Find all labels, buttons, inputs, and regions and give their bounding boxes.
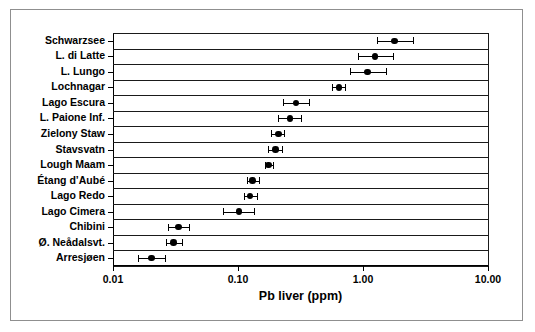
error-cap-low [268,146,269,153]
row-gridline [113,142,488,143]
x-axis-tick-label: 0.01 [83,273,143,285]
data-point-marker [391,38,398,45]
row-gridline [113,64,488,65]
y-axis-label: L. di Latte [0,50,105,61]
row-gridline [113,250,488,251]
chart-scatter-pb-liver: SchwarzseeL. di LatteL. LungoLochnagarLa… [0,0,535,332]
error-cap-high [393,53,394,60]
error-cap-high [273,162,274,169]
x-axis-tick-label: 10.00 [458,273,518,285]
x-axis-tick [488,266,489,271]
y-axis-tick [108,56,113,57]
error-cap-low [244,193,245,200]
row-gridline [113,173,488,174]
y-axis-tick [108,150,113,151]
error-cap-low [223,208,224,215]
data-point-marker [372,53,379,60]
row-gridline [113,266,488,267]
y-axis-label: Arresjøen [0,252,105,263]
error-cap-low [278,115,279,122]
x-axis-title: Pb liver (ppm) [113,289,488,303]
error-cap-high [189,224,190,231]
row-gridline [113,95,488,96]
y-axis-tick [108,181,113,182]
y-axis-tick [108,196,113,197]
error-cap-low [358,53,359,60]
y-axis-label: Chibini [0,221,105,232]
y-axis-tick [108,72,113,73]
x-axis-tick [113,266,114,271]
y-axis-tick [108,212,113,213]
y-axis-label: L. Paione Inf. [0,112,105,123]
row-gridline [113,49,488,50]
plot-area [113,33,488,266]
y-axis-tick [108,103,113,104]
y-axis-label: Lough Maam [0,159,105,170]
error-cap-high [284,130,285,137]
data-point-marker [287,115,294,122]
y-axis-label: Lago Redo [0,190,105,201]
error-cap-low [138,255,139,262]
data-point-marker [293,100,300,107]
y-axis-tick [108,165,113,166]
data-point-marker [336,84,343,91]
row-gridline [113,126,488,127]
error-cap-low [271,130,272,137]
data-point-marker [249,177,256,184]
error-cap-high [165,255,166,262]
row-gridline [113,33,488,34]
row-gridline [113,235,488,236]
error-cap-low [247,177,248,184]
error-cap-high [182,239,183,246]
y-axis-label: Stavsvatn [0,144,105,155]
y-axis-label: L. Lungo [0,66,105,77]
x-axis-tick [363,266,364,271]
data-point-marker [275,131,282,138]
error-cap-low [350,68,351,75]
y-axis-tick [108,87,113,88]
error-cap-high [386,68,387,75]
error-cap-high [301,115,302,122]
error-cap-low [332,84,333,91]
data-point-marker [170,239,177,246]
y-axis-tick [108,243,113,244]
x-axis-tick-label: 1.00 [333,273,393,285]
y-axis-tick [108,118,113,119]
y-axis-tick [108,41,113,42]
row-gridline [113,204,488,205]
y-axis-tick [108,134,113,135]
error-cap-high [413,37,414,44]
error-cap-high [259,177,260,184]
data-point-marker [272,146,279,153]
error-cap-low [377,37,378,44]
error-cap-high [282,146,283,153]
row-gridline [113,80,488,81]
y-axis-label: Lago Cimera [0,206,105,217]
y-axis-tick [108,227,113,228]
data-point-marker [364,69,371,76]
y-axis-label: Lochnagar [0,81,105,92]
y-axis-label: Ø. Neådalsvt. [0,237,105,248]
y-axis-label: Étang d’Aubé [0,175,105,186]
error-cap-high [345,84,346,91]
x-axis-tick-label: 0.10 [208,273,268,285]
error-cap-high [257,193,258,200]
error-cap-high [254,208,255,215]
x-axis-tick [238,266,239,271]
row-gridline [113,111,488,112]
y-axis-label: Zielony Staw [0,128,105,139]
error-cap-low [168,224,169,231]
error-cap-low [166,239,167,246]
row-gridline [113,219,488,220]
y-axis-tick [108,258,113,259]
row-gridline [113,157,488,158]
error-cap-high [309,99,310,106]
y-axis-label: Schwarzsee [0,35,105,46]
data-point-marker [236,208,243,215]
error-cap-low [283,99,284,106]
row-gridline [113,188,488,189]
y-axis-label: Lago Escura [0,97,105,108]
plot-right-border [488,33,489,266]
